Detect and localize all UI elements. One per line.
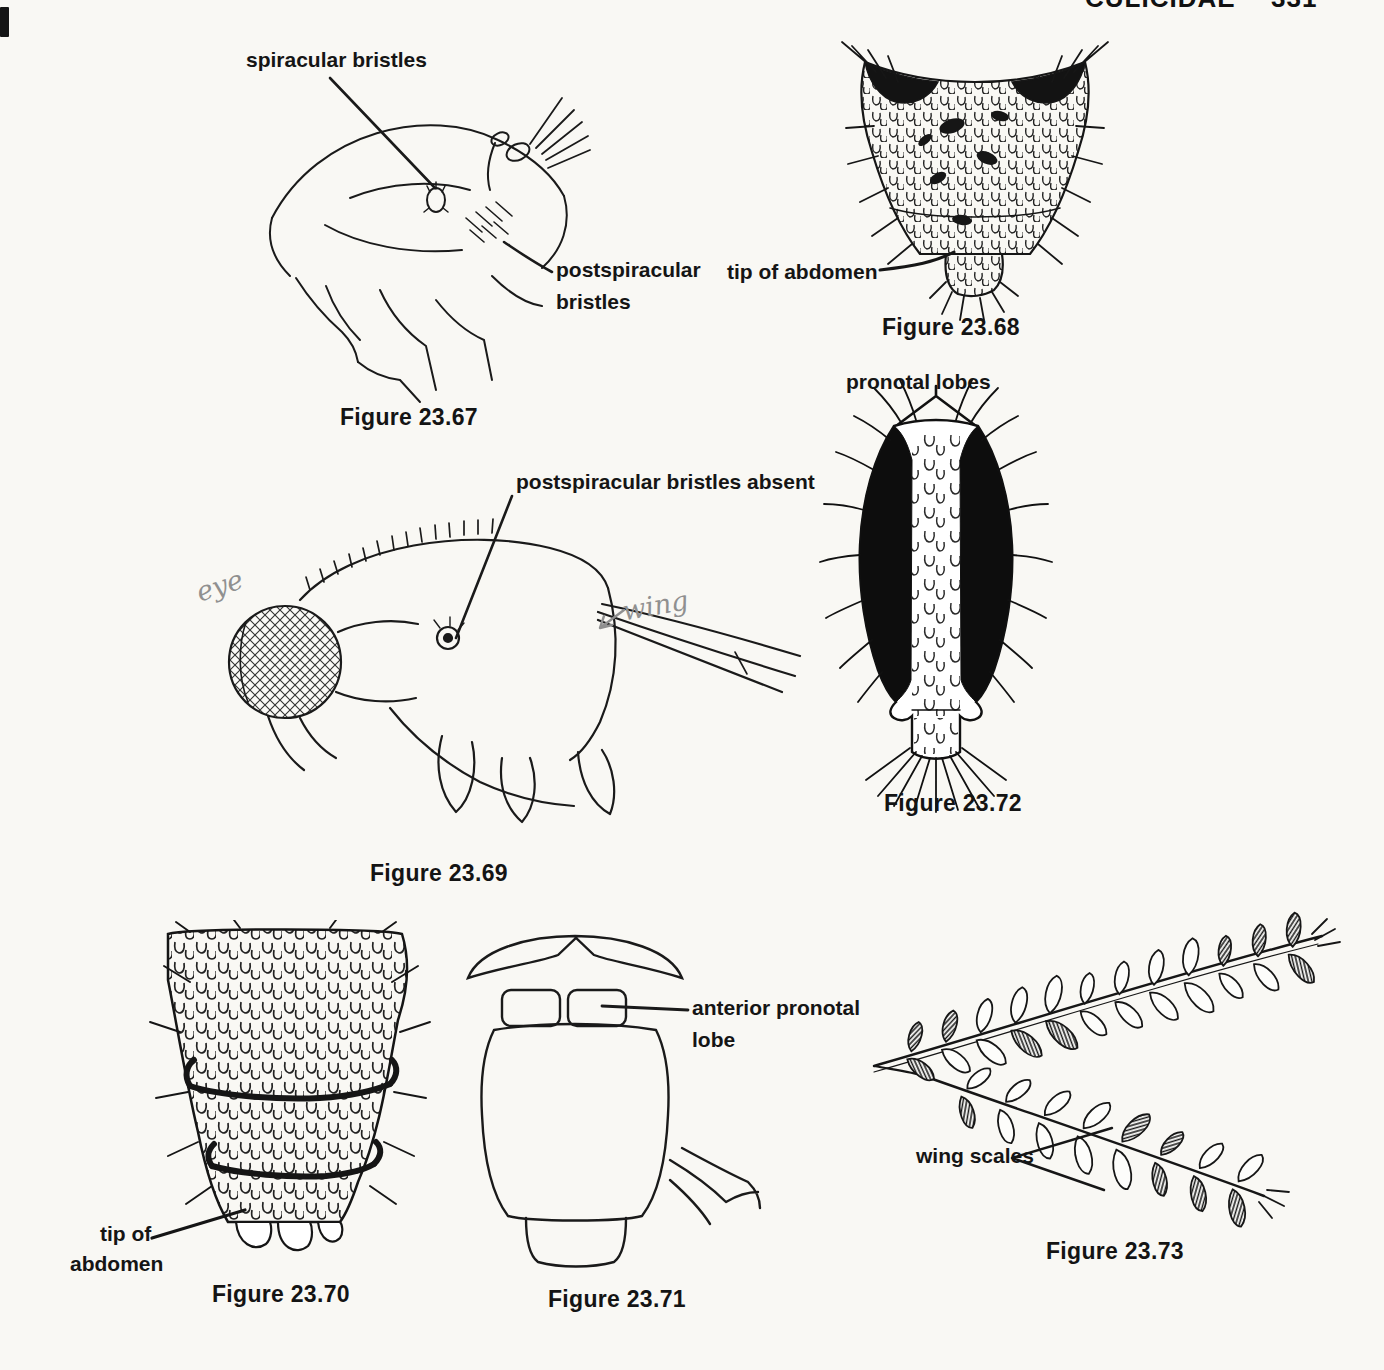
figure-23-73: wing scales Figure 23.73 [860, 900, 1360, 1270]
scan-artifact [0, 7, 9, 37]
fig67-drawing [230, 40, 650, 440]
running-title: CULICIDAE [1085, 0, 1236, 13]
fig68-drawing [700, 30, 1130, 350]
figure-23-72: pronotal lobes Figure 23.72 [790, 360, 1120, 820]
caption-figure-23-68: Figure 23.68 [882, 314, 1020, 341]
caption-figure-23-73: Figure 23.73 [1046, 1238, 1184, 1265]
label-tip-of-1: tip of [100, 1220, 151, 1247]
figure-23-71: anterior pronotal lobe Figure 23.71 [430, 910, 850, 1330]
caption-figure-23-71: Figure 23.71 [548, 1286, 686, 1313]
label-wing-scales: wing scales [916, 1142, 1034, 1169]
figure-23-67: spiracular bristles postspiracular brist… [230, 40, 650, 440]
caption-figure-23-67: Figure 23.67 [340, 404, 478, 431]
fig73-drawing [860, 900, 1360, 1270]
page-number: 331 [1271, 0, 1317, 13]
running-header: CULICIDAE 331 [1085, 0, 1345, 13]
fig69-drawing [150, 440, 830, 890]
label-postspiracular-bristles-2: bristles [556, 288, 631, 315]
label-tip-of-abdomen: tip of abdomen [727, 258, 878, 285]
label-postspiracular-bristles-1: postspiracular [556, 256, 701, 283]
fig71-drawing [430, 910, 850, 1330]
caption-figure-23-70: Figure 23.70 [212, 1281, 350, 1308]
figure-23-69: postspiracular bristles absent eye wing … [150, 440, 830, 890]
book-page: CULICIDAE 331 [0, 0, 1384, 1370]
label-pronotal-lobes: pronotal lobes [846, 368, 991, 395]
label-tip-of-2: abdomen [70, 1250, 163, 1277]
figure-23-70: tip of abdomen Figure 23.70 [40, 920, 460, 1315]
label-anterior-pronotal-2: lobe [692, 1026, 735, 1053]
caption-figure-23-72: Figure 23.72 [884, 790, 1022, 817]
label-spiracular-bristles: spiracular bristles [246, 46, 427, 73]
fig72-drawing [790, 360, 1120, 820]
label-anterior-pronotal-1: anterior pronotal [692, 994, 860, 1021]
caption-figure-23-69: Figure 23.69 [370, 860, 508, 887]
figure-23-68: tip of abdomen Figure 23.68 [700, 30, 1130, 350]
label-postspiracular-absent: postspiracular bristles absent [516, 468, 815, 495]
